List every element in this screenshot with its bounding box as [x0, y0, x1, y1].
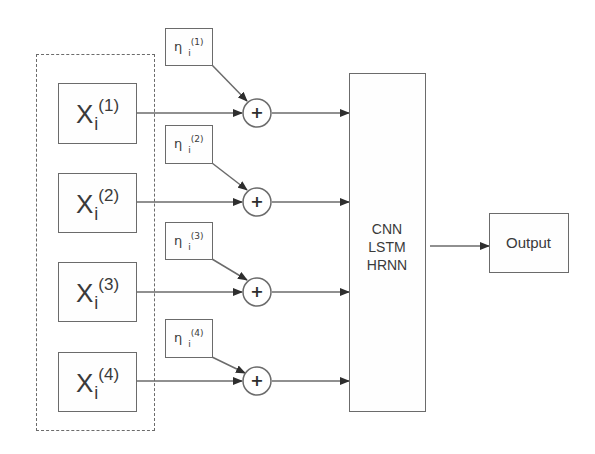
input-label-3: Xi(3): [76, 280, 119, 306]
arrow-eta2-to-adder2: [212, 163, 247, 190]
input-box-2: Xi(2): [58, 173, 137, 233]
noise-box-1: ηi(1): [165, 28, 213, 66]
noise-box-2: ηi(2): [165, 125, 213, 164]
model-label-cnn: CNN: [350, 220, 424, 238]
noise-label-1: ηi(1): [174, 40, 204, 53]
output-box: Output: [489, 213, 569, 273]
model-label-hrnn: HRNN: [350, 256, 424, 274]
input-box-1: Xi(1): [58, 83, 137, 144]
arrow-eta3-to-adder3: [212, 259, 247, 280]
diagram-canvas: + + + + Xi(1) Xi(2) Xi(3) Xi(4) ηi(1) ηi…: [0, 0, 595, 454]
input-box-3: Xi(3): [58, 262, 137, 322]
noise-label-2: ηi(2): [174, 137, 204, 150]
adder-symbol-3: +: [243, 282, 271, 302]
noise-label-3: ηi(3): [174, 234, 204, 247]
model-labels: CNN LSTM HRNN: [350, 220, 424, 274]
input-label-4: Xi(4): [76, 370, 119, 396]
input-label-1: Xi(1): [76, 101, 119, 127]
adder-symbol-4: +: [243, 371, 271, 391]
model-box: CNN LSTM HRNN: [349, 73, 426, 412]
input-box-4: Xi(4): [58, 352, 137, 412]
noise-box-4: ηi(4): [165, 319, 213, 358]
arrow-eta4-to-adder4: [212, 357, 245, 373]
input-label-2: Xi(2): [76, 191, 119, 217]
output-label: Output: [490, 235, 567, 250]
noise-label-4: ηi(4): [174, 331, 204, 344]
adder-symbol-1: +: [243, 103, 271, 123]
arrow-eta1-to-adder1: [212, 65, 247, 101]
adder-symbol-2: +: [243, 192, 271, 212]
model-label-lstm: LSTM: [350, 238, 424, 256]
noise-box-3: ηi(3): [165, 222, 213, 260]
